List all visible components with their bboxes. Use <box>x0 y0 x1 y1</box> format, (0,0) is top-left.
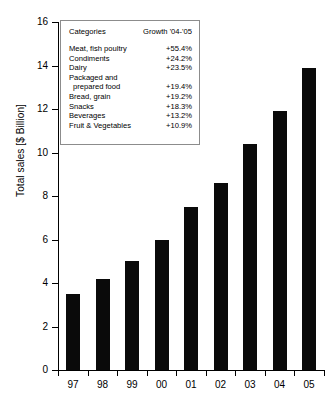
bar <box>214 183 228 370</box>
legend-growth-value: +19.4% <box>166 82 192 92</box>
x-tick-label: 03 <box>235 379 265 391</box>
legend-category-label: Meat, fish poultry <box>69 44 127 54</box>
legend-header: Categories Growth '04-'05 <box>69 27 192 36</box>
legend-row: Fruit & Vegetables+10.9% <box>69 121 192 131</box>
x-tick-label: 04 <box>265 379 295 391</box>
x-tick-label: 02 <box>206 379 236 391</box>
legend-growth-value: +55.4% <box>166 44 192 54</box>
legend-category-label: Dairy <box>69 63 87 73</box>
legend-growth-value: +19.2% <box>166 92 192 102</box>
bar-chart: Total sales [$ Billion] 0246810121416 97… <box>0 0 332 406</box>
legend-category-label: Beverages <box>69 111 105 121</box>
legend-header-categories: Categories <box>69 27 106 36</box>
y-tick-mark <box>52 196 59 197</box>
legend-category-label: Fruit & Vegetables <box>69 121 131 131</box>
y-tick-label: 2 <box>2 322 48 332</box>
y-tick-label: 16 <box>2 17 48 27</box>
legend-growth-value: +10.9% <box>166 121 192 131</box>
bar <box>243 144 257 370</box>
x-tick-mark <box>294 370 295 376</box>
x-tick-mark <box>117 370 118 376</box>
bar <box>302 68 316 370</box>
x-tick-mark <box>324 370 325 376</box>
legend-row: Dairy+23.5% <box>69 63 192 73</box>
y-tick-label: 10 <box>2 148 48 158</box>
bar <box>184 207 198 370</box>
y-tick-label: 0 <box>2 365 48 375</box>
x-tick-label: 01 <box>176 379 206 391</box>
y-tick-mark <box>52 153 59 154</box>
legend-category-label: Bread, grain <box>69 92 110 102</box>
legend-category-label: Packaged and <box>69 73 118 83</box>
x-tick-label: 98 <box>88 379 118 391</box>
x-tick-label: 97 <box>58 379 88 391</box>
y-tick-label: 4 <box>2 278 48 288</box>
legend-growth-value: +18.3% <box>166 102 192 112</box>
legend-row: prepared food+19.4% <box>69 82 192 92</box>
legend-row: Meat, fish poultry+55.4% <box>69 44 192 54</box>
legend-growth-value: +13.2% <box>166 111 192 121</box>
y-tick-label: 8 <box>2 191 48 201</box>
legend-growth-value: +24.2% <box>166 54 192 64</box>
y-tick-mark <box>52 109 59 110</box>
x-tick-mark <box>147 370 148 376</box>
bar <box>273 111 287 370</box>
legend-category-label: Snacks <box>69 102 94 112</box>
x-tick-mark <box>206 370 207 376</box>
y-tick-mark <box>52 22 59 23</box>
x-tick-label: 05 <box>294 379 324 391</box>
y-tick-label: 6 <box>2 235 48 245</box>
x-tick-mark <box>265 370 266 376</box>
bar <box>96 279 110 370</box>
legend-category-label: prepared food <box>69 82 120 92</box>
y-tick-mark <box>52 66 59 67</box>
bar <box>66 294 80 370</box>
bar <box>155 240 169 371</box>
legend-row: Snacks+18.3% <box>69 102 192 112</box>
x-tick-label: 99 <box>117 379 147 391</box>
y-tick-label: 12 <box>2 104 48 114</box>
bar <box>125 261 139 370</box>
legend-category-label: Condiments <box>69 54 110 64</box>
x-tick-mark <box>176 370 177 376</box>
legend-growth-value: +23.5% <box>166 63 192 73</box>
x-axis-line <box>58 370 324 371</box>
x-tick-mark <box>58 370 59 376</box>
legend-row: Packaged and <box>69 73 192 83</box>
legend-box: Categories Growth '04-'05 Meat, fish pou… <box>60 20 200 145</box>
x-tick-label: 00 <box>147 379 177 391</box>
legend-row: Bread, grain+19.2% <box>69 92 192 102</box>
y-tick-mark <box>52 240 59 241</box>
y-tick-mark <box>52 283 59 284</box>
legend-header-growth: Growth '04-'05 <box>143 27 192 36</box>
y-tick-label: 14 <box>2 61 48 71</box>
legend-row: Beverages+13.2% <box>69 111 192 121</box>
x-tick-mark <box>88 370 89 376</box>
legend-rows: Meat, fish poultry+55.4%Condiments+24.2%… <box>69 44 192 130</box>
legend-row: Condiments+24.2% <box>69 54 192 64</box>
y-tick-mark <box>52 327 59 328</box>
x-tick-mark <box>235 370 236 376</box>
